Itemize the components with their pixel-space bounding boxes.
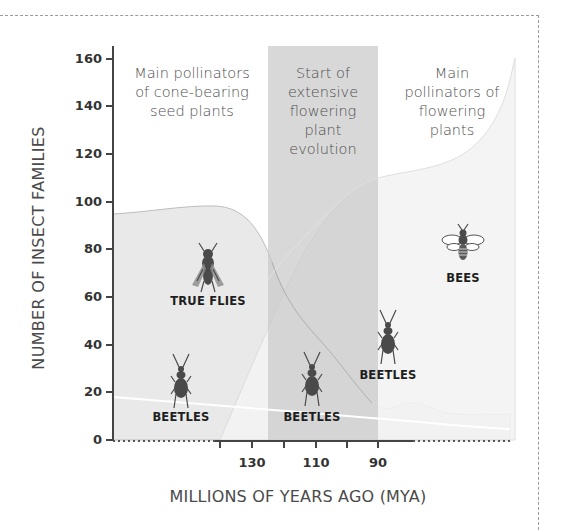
x-axis-title: MILLIONS OF YEARS AGO (MYA) <box>168 487 428 506</box>
y-tick-label-140: 140 <box>62 98 102 113</box>
label-beetles-left: BEETLES <box>141 410 221 424</box>
y-axis-title: NUMBER OF INSECT FAMILIES <box>29 126 48 369</box>
y-tick-label-120: 120 <box>62 146 102 161</box>
annotation-cone-bearing: Main pollinators of cone-bearing seed pl… <box>122 64 262 121</box>
y-tick-label-80: 80 <box>62 241 102 256</box>
y-tick-label-60: 60 <box>62 289 102 304</box>
y-tick-label-160: 160 <box>62 51 102 66</box>
y-tick-label-100: 100 <box>62 194 102 209</box>
annotation-flowering-evolution: Start of extensive flowering plant evolu… <box>268 64 378 159</box>
y-tick-label-40: 40 <box>62 337 102 352</box>
y-tick-label-0: 0 <box>62 432 102 447</box>
label-beetles-middle: BEETLES <box>272 410 352 424</box>
x-tick-label-130: 130 <box>232 455 272 470</box>
label-bees: BEES <box>433 271 493 285</box>
y-tick-label-20: 20 <box>62 384 102 399</box>
x-tick-label-110: 110 <box>296 455 336 470</box>
label-beetles-right: BEETLES <box>348 368 428 382</box>
annotation-flowering-pollinators: Main pollinators of flowering plants <box>392 64 512 140</box>
label-true-flies: TRUE FLIES <box>168 294 248 308</box>
x-axis-ticks <box>220 441 378 448</box>
y-axis-ticks <box>106 59 113 440</box>
x-tick-label-90: 90 <box>358 455 398 470</box>
